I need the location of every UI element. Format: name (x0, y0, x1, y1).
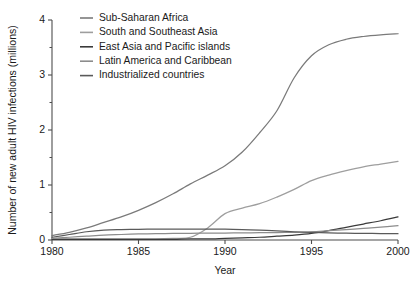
x-tick-label: 1985 (127, 245, 151, 257)
hiv-infections-line-chart: 0123419801985199019952000YearNumber of n… (0, 0, 410, 283)
x-tick-label: 1995 (300, 245, 324, 257)
series-line-east-asia-and-pacific-islands (52, 217, 398, 240)
legend-label-3: East Asia and Pacific islands (99, 41, 230, 52)
y-tick-label: 1 (39, 178, 45, 190)
y-tick-label: 0 (39, 233, 45, 245)
y-tick-label: 3 (39, 68, 45, 80)
y-tick-label: 4 (39, 13, 45, 25)
legend-label-2: South and Southeast Asia (99, 26, 218, 37)
x-tick-label: 1990 (213, 245, 237, 257)
legend-label-1: Sub-Saharan Africa (99, 12, 189, 23)
x-axis-title: Year (214, 264, 236, 276)
legend-label-5: Industrialized countries (99, 69, 204, 80)
legend-label-4: Latin America and Caribbean (99, 55, 232, 66)
y-tick-label: 2 (39, 123, 45, 135)
x-tick-label: 1980 (40, 245, 64, 257)
chart-canvas: 0123419801985199019952000YearNumber of n… (0, 0, 410, 283)
x-tick-label: 2000 (386, 245, 410, 257)
y-axis-title: Number of new adult HIV infections (mill… (6, 25, 18, 235)
